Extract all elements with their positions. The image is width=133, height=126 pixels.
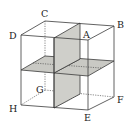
cube-diagram: A B C D E F G H [0, 0, 133, 126]
label-D: D [9, 30, 17, 41]
label-F: F [117, 94, 124, 105]
label-E: E [84, 112, 91, 123]
label-G: G [36, 84, 44, 95]
label-C: C [41, 8, 48, 19]
edge-E-F [88, 97, 114, 110]
label-B: B [117, 19, 124, 30]
label-H: H [9, 103, 17, 114]
edge-B-A [88, 26, 114, 40]
edge-D-C [21, 21, 45, 35]
label-A: A [82, 29, 90, 40]
